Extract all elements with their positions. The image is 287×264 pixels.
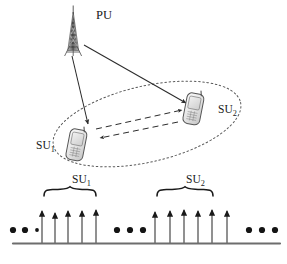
spectrum-ellipsis-middle [114,227,146,233]
label-su1-network: SU1 [36,140,55,155]
label-pu: PU [96,9,112,22]
mobile-phone-icon-su1 [65,125,88,162]
coverage-ellipse [45,65,249,182]
label-su2-network-base: SU [218,103,233,115]
link-su2-to-su1 [100,122,178,138]
carrier-arrows-su2 [155,210,227,243]
label-su1-band-subscript: 1 [87,179,91,188]
label-su2-network-subscript: 2 [233,109,237,118]
label-su2-band-base: SU [186,173,201,185]
label-su2-network: SU2 [218,104,237,119]
label-su2-band: SU2 [186,174,205,189]
link-su1-to-su2 [96,110,182,129]
label-su1-band-base: SU [72,173,87,185]
label-su1-band: SU1 [72,174,91,189]
label-su2-band-subscript: 2 [201,179,205,188]
mobile-phone-icon-su2 [182,89,205,126]
carrier-arrows-su1 [42,210,96,243]
link-pu-to-su2 [84,45,186,103]
spectrum-ellipsis-right [246,227,278,233]
figure-canvas: PU SU1 SU2 SU1 SU2 [0,0,287,264]
label-su1-network-subscript: 1 [51,145,55,154]
label-pu-text: PU [96,8,112,22]
cell-tower-icon [65,6,82,57]
diagram-vector-layer [0,0,287,264]
label-su1-network-base: SU [36,139,51,151]
spectrum-ellipsis-left [10,227,39,233]
